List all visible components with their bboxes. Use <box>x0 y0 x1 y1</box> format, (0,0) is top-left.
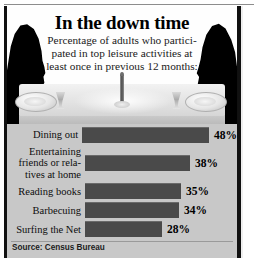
bar-category-label: Reading books <box>7 186 85 197</box>
bar <box>85 221 162 237</box>
source-caption: Source: Census Bureau <box>12 243 105 252</box>
bar-chart-row: Barbecuing34% <box>7 202 237 218</box>
bar <box>85 155 190 171</box>
bar-chart-row: Dining out48% <box>7 127 237 143</box>
bar-category-label: Entertainingfriends or rela-tives at hom… <box>7 146 85 180</box>
bar-category-label: Barbecuing <box>7 205 85 216</box>
subtitle-line-1: Percentage of adults who partici- <box>21 34 223 47</box>
top-divider-rule <box>4 4 254 5</box>
bar-category-label-line: Reading books <box>7 186 81 197</box>
infographic-figure: In the down time Percentage of adults wh… <box>0 0 258 262</box>
bar-category-label: Dining out <box>7 129 82 140</box>
bar-category-label-line: Surfing the Net <box>7 224 81 235</box>
plate-right-inner <box>194 97 216 106</box>
bar-category-label-line: Dining out <box>7 129 78 140</box>
candle-holder-icon <box>114 101 130 108</box>
page-title: In the down time <box>7 12 237 34</box>
bar-chart-row: Surfing the Net28% <box>7 221 237 237</box>
source-divider <box>11 241 233 242</box>
subtitle-block: Percentage of adults who partici- pated … <box>21 34 223 74</box>
bar-chart: Dining out48%Entertainingfriends or rela… <box>7 124 237 258</box>
bar-category-label-line: Barbecuing <box>7 205 81 216</box>
bar-category-label-line: tives at home <box>7 169 81 180</box>
subtitle-line-2: pated in top leisure activities at <box>21 47 223 60</box>
frame-right-highlight <box>241 6 243 258</box>
bar-value-label: 34% <box>184 204 207 216</box>
bar-category-label-line: Entertaining <box>7 146 81 157</box>
bar <box>82 127 209 143</box>
bar-chart-row: Reading books35% <box>7 183 237 199</box>
bar-value-label: 28% <box>167 223 190 235</box>
bar-category-label: Surfing the Net <box>7 224 85 235</box>
bar <box>85 183 181 199</box>
bar-value-label: 48% <box>214 129 237 141</box>
bar <box>85 202 179 218</box>
bar-value-label: 35% <box>186 185 209 197</box>
bar-value-label: 38% <box>195 157 218 169</box>
candle-icon <box>120 76 124 102</box>
plate-left-inner <box>24 97 46 106</box>
bar-chart-rows: Dining out48%Entertainingfriends or rela… <box>7 127 237 240</box>
bar-category-label-line: friends or rela- <box>7 157 81 168</box>
dinner-table-illustration <box>7 72 237 130</box>
bar-chart-row: Entertainingfriends or rela-tives at hom… <box>7 146 237 180</box>
